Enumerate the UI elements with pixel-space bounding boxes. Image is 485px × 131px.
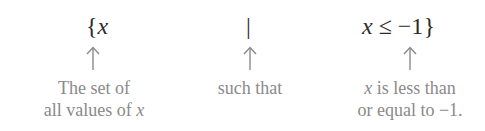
up-arrow-icon [86, 46, 100, 70]
such-that-bar: | [246, 12, 251, 40]
caption-condition-line1-text: is less than [372, 78, 456, 98]
up-arrow-icon [243, 46, 257, 70]
caption-set-line1: The set of [24, 77, 164, 99]
caption-set-line2: all values of x [24, 99, 164, 121]
set-open-math: {x [86, 12, 108, 40]
condition-math: x ≤ −1} [362, 12, 435, 40]
condition-variable: x [362, 13, 373, 39]
caption-set: The set of all values of x [24, 77, 164, 121]
open-brace: { [86, 13, 98, 39]
relation-symbol: ≤ [379, 13, 392, 39]
set-variable: x [98, 13, 109, 39]
caption-condition: x is less than or equal to −1. [340, 77, 480, 121]
condition-value: −1 [398, 13, 424, 39]
up-arrow-icon [403, 46, 417, 70]
caption-set-line2-var: x [136, 100, 144, 120]
caption-such-that: such that [200, 77, 300, 99]
caption-condition-line1: x is less than [340, 77, 480, 99]
caption-condition-line2: or equal to −1. [340, 99, 480, 121]
caption-set-line2-text: all values of [44, 100, 136, 120]
close-brace: } [423, 13, 435, 39]
